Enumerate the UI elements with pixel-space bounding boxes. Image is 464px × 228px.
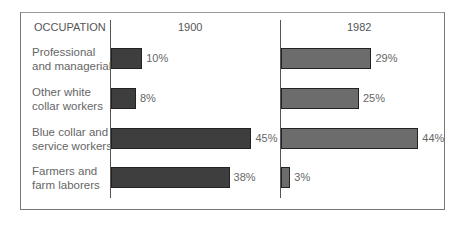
bar-1982 <box>281 167 290 188</box>
bar-value-label: 25% <box>363 92 385 104</box>
bar-value-label: 10% <box>146 52 168 64</box>
category-label: Blue collar andservice workers <box>32 125 112 153</box>
bar-value-label: 45% <box>255 132 277 144</box>
bar-value-label: 8% <box>140 92 156 104</box>
bar-1982 <box>281 88 359 109</box>
bar-1900 <box>111 167 230 188</box>
category-label: Professionaland managerial <box>32 45 111 73</box>
bar-1900 <box>111 48 142 69</box>
bar-value-label: 29% <box>375 52 397 64</box>
series-1982-header: 1982 <box>347 21 371 33</box>
category-label: Other whitecollar workers <box>32 85 103 113</box>
bar-1982 <box>281 48 371 69</box>
bar-1900 <box>111 128 251 149</box>
bar-1982 <box>281 128 418 149</box>
category-label: Farmers andfarm laborers <box>32 164 100 192</box>
bar-1900 <box>111 88 136 109</box>
bar-value-label: 3% <box>294 171 310 183</box>
bar-value-label: 44% <box>422 132 444 144</box>
occupation-header: OCCUPATION <box>34 21 106 33</box>
series-1900-header: 1900 <box>178 21 202 33</box>
bar-value-label: 38% <box>234 171 256 183</box>
